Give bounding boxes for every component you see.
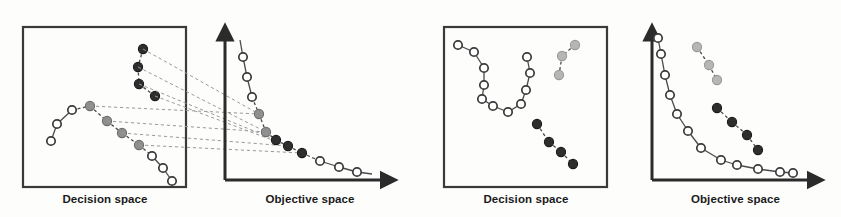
mapping-line xyxy=(139,145,302,153)
caption-objective-space-1: Objective space xyxy=(205,193,415,205)
decision-space-1-open-to-grey-chain-upper-point-open-circle xyxy=(53,120,61,128)
figure-root: Decision space Objective space Decision … xyxy=(0,0,841,217)
objective-space-2-front-curve-open-point-open-circle xyxy=(657,50,665,58)
objective-space-2-dark-chain-point-dark-filled-circle xyxy=(712,103,721,112)
objective-space-1-front-curve-point-open-circle xyxy=(239,53,247,61)
decision-space-2-v-shaped-open-chain-point-open-circle xyxy=(523,53,531,61)
objective-space-2-light-grey-chain-point-light-grey-filled-circle xyxy=(692,42,701,51)
objective-space-1-front-curve-point-open-circle xyxy=(316,157,324,165)
objective-space-1-front-curve-point-dark-filled-circle xyxy=(297,148,306,157)
mapping-line xyxy=(155,96,288,146)
objective-space-1-front-curve-point-open-circle xyxy=(248,93,256,101)
decision-space-2-v-shaped-open-chain-point-open-circle xyxy=(504,108,512,116)
panel-objective-space-2 xyxy=(652,34,811,180)
decision-space-1-open-to-grey-chain-upper-point-open-circle xyxy=(148,152,156,160)
decision-space-1-open-to-grey-chain-upper-point-open-circle xyxy=(47,137,55,145)
decision-space-1-open-to-grey-chain-upper-point-open-circle xyxy=(68,106,76,114)
panel-decision-space-2 xyxy=(444,27,607,187)
decision-space-2-v-shaped-open-chain-point-open-circle xyxy=(517,100,525,108)
decision-space-1-open-to-grey-chain-upper-point-open-circle xyxy=(159,164,167,172)
objective-space-2-front-curve-open-point-open-circle xyxy=(661,71,669,79)
caption-objective-space-2: Objective space xyxy=(630,193,841,205)
objective-space-2-front-curve-open-point-open-circle xyxy=(654,34,662,42)
objective-space-1-front-curve-point-open-circle xyxy=(243,73,251,81)
objective-space-2-front-curve-open-point-open-circle xyxy=(697,144,705,152)
decision-space-2-v-shaped-open-chain-point-open-circle xyxy=(526,69,534,77)
decision-space-2-v-shaped-open-chain-point-open-circle xyxy=(522,86,530,94)
decision-space-2-dark-chain-point-dark-filled-circle xyxy=(556,147,565,156)
decision-space-2-dark-chain-point-dark-filled-circle xyxy=(532,119,541,128)
decision-space-2-dark-chain-point-dark-filled-circle xyxy=(568,159,577,168)
decision-space-2-v-shaped-open-chain-point-open-circle xyxy=(489,102,497,110)
decision-space-2-v-shaped-open-chain-point-open-circle xyxy=(478,95,486,103)
objective-space-2-light-grey-chain-point-light-grey-filled-circle xyxy=(712,75,721,84)
objective-space-2-front-curve-open-point-open-circle xyxy=(666,91,674,99)
objective-space-1-front-curve-point-grey-filled-circle xyxy=(261,127,270,136)
objective-space-2-front-curve-open-point-open-circle xyxy=(776,168,784,176)
mapping-line xyxy=(90,106,259,114)
objective-space-1-front-curve-point-open-circle xyxy=(335,163,343,171)
decision-space-2-light-grey-chain-point-light-grey-filled-circle xyxy=(570,40,579,49)
objective-space-1-front-curve-point-open-circle xyxy=(353,168,361,176)
decision-space-2-v-shaped-open-chain-point-open-circle xyxy=(470,48,478,56)
objective-space-2-dark-chain-point-dark-filled-circle xyxy=(727,117,736,126)
objective-space-2-front-curve-open-point-open-circle xyxy=(754,165,762,173)
objective-space-2-front-curve-open-point-open-circle xyxy=(673,110,681,118)
decision-space-1-open-to-grey-chain-upper-point-open-circle xyxy=(168,177,176,185)
objective-space-2-dark-chain-point-dark-filled-circle xyxy=(753,145,762,154)
objective-space-2-front-curve-open-point-open-circle xyxy=(684,127,692,135)
objective-space-2-front-curve-open-point-open-circle xyxy=(789,169,797,177)
objective-space-1-front-curve-point-grey-filled-circle xyxy=(254,109,263,118)
objective-space-2-front-curve-open-point-open-circle xyxy=(733,161,741,169)
caption-decision-space-2: Decision space xyxy=(420,193,632,205)
decision-space-2-box xyxy=(444,27,607,187)
decision-space-2-v-shaped-open-chain-point-open-circle xyxy=(480,81,488,89)
decision-space-2-dark-chain-point-dark-filled-circle xyxy=(544,137,553,146)
objective-space-2-front-curve-open-point-open-circle xyxy=(717,156,725,164)
decision-space-2-light-grey-chain-point-light-grey-filled-circle xyxy=(554,70,563,79)
decision-space-2-light-grey-chain-point-light-grey-filled-circle xyxy=(557,51,566,60)
decision-space-2-v-shaped-open-chain-point-open-circle xyxy=(454,41,462,49)
decision-space-2-v-shaped-open-chain-point-open-circle xyxy=(480,64,488,72)
objective-space-2-light-grey-chain-point-light-grey-filled-circle xyxy=(704,60,713,69)
caption-decision-space-1: Decision space xyxy=(0,193,210,205)
objective-space-1-front-curve-point-dark-filled-circle xyxy=(271,135,280,144)
figure-canvas xyxy=(0,0,841,217)
objective-space-1-front-curve-point-dark-filled-circle xyxy=(283,141,292,150)
objective-space-2-dark-chain-point-dark-filled-circle xyxy=(742,130,751,139)
